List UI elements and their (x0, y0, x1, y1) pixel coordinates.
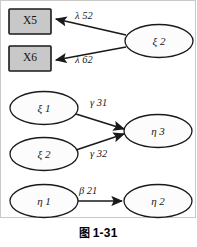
edge-label-lambda-62: λ 62 (75, 55, 93, 66)
node-label-eta2: η 2 (124, 196, 192, 207)
edge-label-gamma-31: γ 31 (90, 98, 107, 109)
node-label-eta1: η 1 (10, 196, 78, 207)
figure-caption-number: 1-31 (93, 226, 118, 240)
figure-caption-symbol: 图 (79, 227, 90, 240)
figure-caption: 图1-31 (0, 224, 197, 240)
edge-ksi1-to-eta3 (76, 114, 124, 129)
figure-container: X5 X6 ξ 2 ξ 1 ξ 2 η 3 η 1 η 2 λ 52 λ 62 … (0, 0, 197, 247)
edge-label-beta-21: β 21 (79, 186, 97, 197)
node-label-ksi1: ξ 1 (10, 103, 78, 114)
node-label-ksi2-top: ξ 2 (125, 36, 193, 47)
edge-label-lambda-52: λ 52 (75, 11, 93, 22)
node-label-x5: X5 (9, 15, 51, 27)
edge-label-gamma-32: γ 32 (90, 149, 107, 160)
node-label-ksi2-mid: ξ 2 (10, 149, 78, 160)
node-label-x6: X6 (9, 52, 51, 64)
node-label-eta3: η 3 (124, 126, 192, 137)
